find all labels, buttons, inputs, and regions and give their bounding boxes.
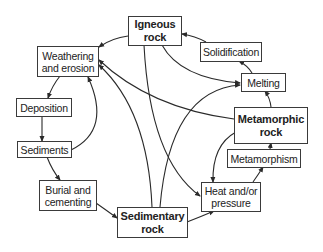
edge-sediments-to-burial <box>47 157 60 180</box>
node-heat-and-or-pressure: Heat and/or pressure <box>201 182 261 212</box>
edge-sediments-to-weathering <box>71 77 97 150</box>
edge-heat-to-metamorphism <box>253 167 263 182</box>
node-igneous-rock-label: Igneous rock <box>135 18 176 44</box>
node-metamorphic-rock-label: Metamorphic rock <box>238 113 304 139</box>
edge-metamorphic-to-melting <box>265 91 271 107</box>
node-solidification-label: Solidification <box>203 46 259 58</box>
edge-igneous-to-weathering <box>99 36 128 47</box>
node-weathering-and-erosion-label: Weathering and erosion <box>42 50 95 74</box>
edge-weathering-to-deposition <box>48 76 60 98</box>
edge-solidification-to-igneous <box>182 34 206 42</box>
node-melting: Melting <box>241 73 286 92</box>
edge-sedimentary-to-weathering <box>99 65 152 207</box>
node-sedimentary-rock-label: Sedimentary rock <box>121 210 185 236</box>
node-metamorphism: Metamorphism <box>227 149 301 168</box>
node-metamorphism-label: Metamorphism <box>230 153 297 165</box>
node-solidification: Solidification <box>200 42 262 62</box>
edge-burial-to-sedimentary <box>96 203 117 218</box>
node-burial-and-cementing-label: Burial and cementing <box>45 184 92 208</box>
edge-sedimentary-to-heat <box>187 211 214 222</box>
node-weathering-and-erosion: Weathering and erosion <box>37 46 99 77</box>
node-deposition: Deposition <box>16 98 72 117</box>
node-heat-and-or-pressure-label: Heat and/or pressure <box>205 185 258 209</box>
node-igneous-rock: Igneous rock <box>128 16 182 46</box>
node-melting-label: Melting <box>247 77 279 89</box>
node-deposition-label: Deposition <box>20 102 68 114</box>
node-metamorphic-rock: Metamorphic rock <box>234 107 308 144</box>
edge-igneous-to-heat <box>144 45 200 196</box>
edge-melting-to-solidification <box>239 61 252 73</box>
node-burial-and-cementing: Burial and cementing <box>39 180 97 211</box>
node-sedimentary-rock: Sedimentary rock <box>117 207 188 238</box>
node-sediments: Sediments <box>17 141 72 158</box>
node-sediments-label: Sediments <box>21 144 69 156</box>
